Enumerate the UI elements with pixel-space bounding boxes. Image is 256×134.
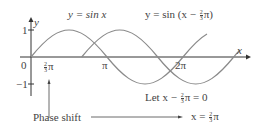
phase-shift-diagram: y = sin x y = sin (x − 23π) y x 1 −1 0 2… [0, 0, 256, 134]
y-tick-label-1: 1 [22, 25, 28, 36]
origin-label: 0 [21, 60, 27, 71]
frac-den: 3 [44, 67, 47, 73]
legend-sin-x-text: y = sin x [68, 8, 106, 20]
arrow-up-icon [48, 79, 51, 84]
legend-sin-x: y = sin x [68, 9, 106, 20]
let-suffix: π = 0 [185, 91, 208, 103]
x-tick-label-pi: π [102, 60, 108, 71]
phase-shift-label: Phase shift [33, 112, 81, 123]
x-axis-label: x [237, 45, 242, 56]
y-axis-label: y [34, 17, 39, 28]
legend-shifted-prefix: y = sin (x − [145, 8, 196, 20]
let-prefix: Let x − [145, 91, 177, 103]
x-tick-label-shift: 23π [43, 61, 54, 73]
frac-den: 3 [181, 98, 184, 104]
legend-sin-shifted: y = sin (x − 23π) [145, 9, 213, 21]
x-tick-label-2pi: 2π [175, 60, 186, 71]
pi-symbol: π [48, 60, 54, 72]
fraction: 23 [200, 10, 203, 21]
x-axis-arrow-icon [246, 55, 251, 60]
y-tick-label-neg1: −1 [16, 79, 28, 90]
fraction: 23 [209, 112, 212, 123]
result-suffix: π [213, 110, 219, 122]
result-equation: x = 23π [191, 111, 219, 123]
legend-shifted-suffix: π) [204, 8, 213, 20]
result-prefix: x = [191, 110, 205, 122]
fraction: 23 [181, 93, 184, 104]
frac-den: 3 [209, 117, 212, 123]
frac-den: 3 [200, 15, 203, 21]
let-equation: Let x − 23π = 0 [145, 92, 207, 104]
y-axis-arrow-icon [29, 17, 34, 22]
fraction: 23 [44, 62, 47, 73]
arrow-right-icon [178, 116, 183, 119]
